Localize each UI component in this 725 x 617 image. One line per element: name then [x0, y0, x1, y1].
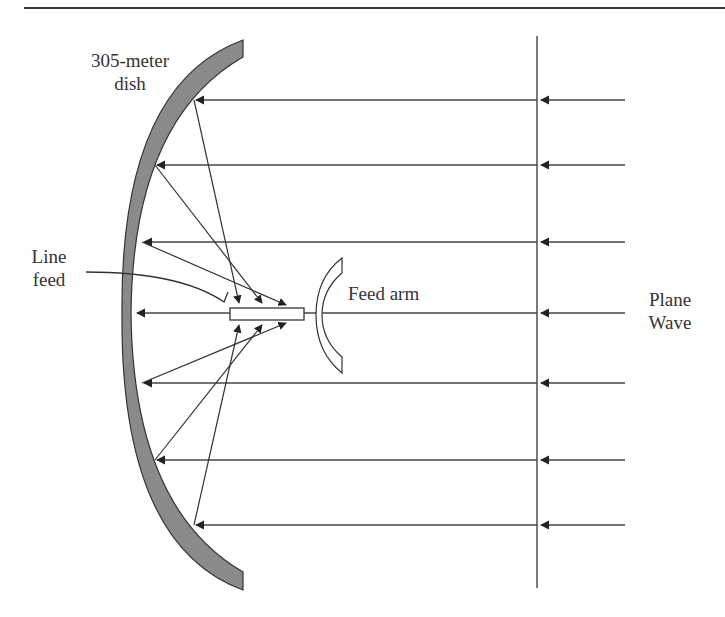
plane-wave-label: Plane Wave [640, 288, 700, 334]
line-feed-leader [86, 272, 228, 302]
line-feed-label: Line feed [24, 245, 74, 291]
feed-arm-label: Feed arm [348, 282, 419, 305]
line-feed [230, 308, 304, 320]
feed-arm [316, 258, 342, 373]
dish-reflector [122, 40, 243, 590]
incoming-rays-left [137, 100, 537, 525]
incoming-rays-right [541, 100, 625, 525]
dish-label: 305-meter dish [80, 49, 180, 95]
